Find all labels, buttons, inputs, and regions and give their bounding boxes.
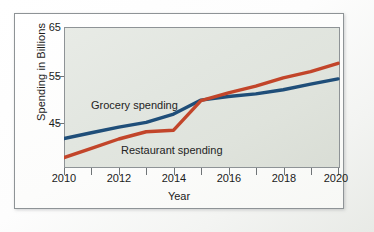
x-tick-label-2020: 2020 — [316, 172, 356, 184]
series-label-restaurant: Restaurant spending — [121, 144, 223, 156]
x-axis-title: Year — [15, 190, 343, 202]
x-tick-mark-2015 — [201, 168, 202, 175]
x-tick-label-2010: 2010 — [44, 172, 84, 184]
x-tick-label-2014: 2014 — [154, 172, 194, 184]
x-tick-mark-2011 — [91, 168, 92, 175]
x-tick-label-2016: 2016 — [209, 172, 249, 184]
x-tick-label-2018: 2018 — [264, 172, 304, 184]
y-tick-label-65: 65 — [35, 22, 61, 33]
x-tick-mark-2013 — [146, 168, 147, 175]
chart-area: Spending in Billions 65 55 45 2010 2012 … — [15, 14, 343, 208]
x-tick-label-2012: 2012 — [99, 172, 139, 184]
series-label-grocery: Grocery spending — [91, 99, 178, 111]
x-tick-mark-2017 — [256, 168, 257, 175]
chart-figure: Spending in Billions 65 55 45 2010 2012 … — [14, 13, 344, 209]
x-tick-mark-2019 — [311, 168, 312, 175]
